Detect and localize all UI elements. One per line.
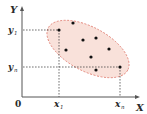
svg-text:y: y	[7, 62, 14, 72]
scatter-diagram: Y X 0 y 1 y n x 1 x n	[0, 0, 147, 114]
data-point	[94, 68, 97, 71]
xn-tick-label: x n	[114, 99, 125, 110]
data-point	[64, 48, 67, 51]
svg-text:y: y	[7, 25, 14, 35]
svg-text:x: x	[114, 99, 121, 109]
y-axis-label: Y	[10, 4, 18, 15]
x-axis-label: X	[135, 102, 145, 113]
svg-text:x: x	[53, 99, 60, 109]
svg-text:1: 1	[60, 104, 64, 110]
y1-tick-label: y 1	[7, 25, 18, 36]
point-cloud-ellipse	[38, 8, 138, 89]
data-point	[94, 36, 97, 39]
svg-text:n: n	[14, 67, 18, 73]
svg-text:1: 1	[14, 30, 18, 36]
svg-text:n: n	[121, 104, 125, 110]
y-axis-arrow-icon	[20, 6, 24, 11]
origin-label: 0	[15, 99, 21, 109]
yn-tick-label: y n	[7, 62, 18, 73]
data-point	[81, 38, 84, 41]
data-point	[57, 28, 60, 31]
x1-tick-label: x 1	[53, 99, 64, 110]
data-point	[107, 47, 110, 50]
data-point	[71, 21, 74, 24]
data-point	[118, 65, 121, 68]
data-point	[89, 55, 92, 58]
x-axis-arrow-icon	[135, 95, 140, 99]
